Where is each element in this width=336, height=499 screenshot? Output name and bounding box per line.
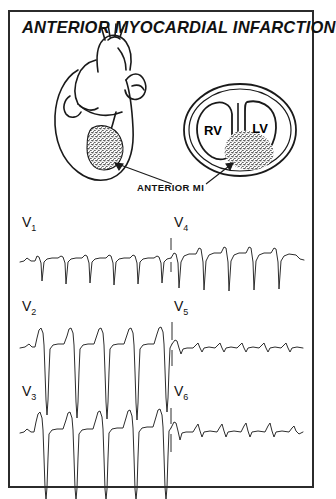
lead-label-v2: V2 <box>22 298 36 317</box>
lead-label-v1: V1 <box>22 214 36 233</box>
lv-label: LV <box>252 121 268 136</box>
anterior-mi-label: ANTERIOR MI <box>137 182 204 193</box>
anatomy-illustration: RV LV <box>0 0 324 210</box>
rv-label: RV <box>204 123 222 138</box>
lead-label-v4: V4 <box>174 214 188 233</box>
lead-label-v6: V6 <box>174 383 188 402</box>
lead-label-v3: V3 <box>22 383 36 402</box>
lead-label-v5: V5 <box>174 298 188 317</box>
